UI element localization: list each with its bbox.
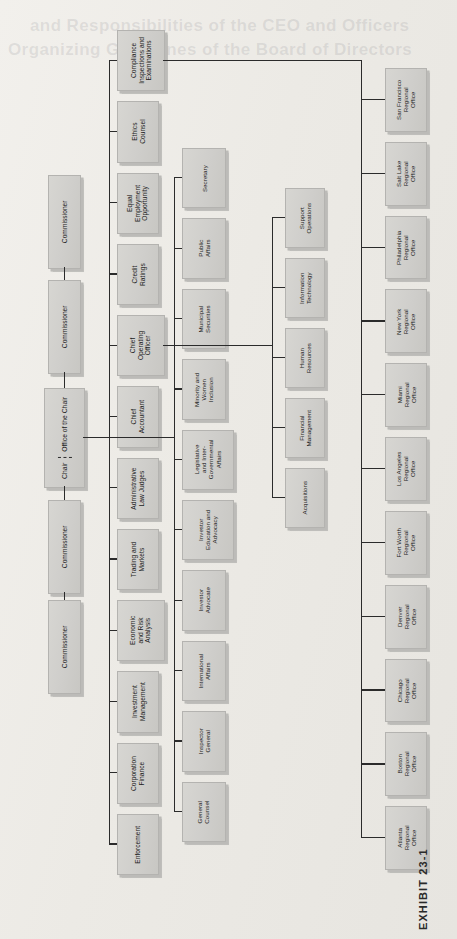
col2-stub-5	[174, 529, 182, 530]
col1-stub-8	[109, 630, 117, 631]
operating-unit-box-1[interactable]: InformationTechnology	[285, 258, 325, 318]
commissioner-box-0[interactable]: Commissioner	[48, 175, 81, 269]
regional-office-box-2-label: PhiladelphiaRegionalOffice	[395, 230, 417, 264]
regional-office-box-1[interactable]: Salt LakeRegionalOffice	[385, 142, 427, 206]
division-box-7-label: Trading andMarkets	[130, 542, 145, 578]
division-box-0[interactable]: ComplianceInspections andExaminations	[117, 30, 165, 91]
commissioner-box-3[interactable]: Commissioner	[48, 600, 81, 694]
chair-box[interactable]: ChairOffice of the Chair	[44, 388, 85, 488]
division-box-10-label: CorporationFinance	[130, 756, 145, 791]
operating-unit-box-0[interactable]: SupportOperations	[285, 188, 325, 248]
col1-stub-3	[109, 273, 117, 274]
regional-trunk	[361, 60, 362, 837]
division-box-0-label: ComplianceInspections andExaminations	[130, 37, 153, 84]
regional-office-box-4-label: MiamiRegionalOffice	[395, 383, 417, 408]
col3-stub-0	[272, 217, 285, 218]
operating-unit-box-2[interactable]: HumanResources	[285, 328, 325, 388]
col3-stub-1	[272, 287, 285, 288]
regional-office-box-9[interactable]: BostonRegionalOffice	[385, 732, 427, 796]
division-box-6-label: AdministrativeLaw Judges	[130, 467, 145, 509]
division-box-5-label: ChiefAccountant	[130, 400, 145, 434]
regional-stub-7	[361, 616, 385, 617]
division-box-4[interactable]: ChiefOperatingOfficer	[117, 315, 165, 376]
division-box-11[interactable]: Enforcement	[117, 814, 159, 875]
spine-connector-2	[64, 486, 65, 500]
col1-stub-7	[109, 558, 117, 559]
chair-subtitle: Office of the Chair	[61, 392, 69, 457]
col2-stub-4	[174, 459, 182, 460]
division-box-10[interactable]: CorporationFinance	[117, 743, 159, 804]
office-box-6[interactable]: InvestorAdvocate	[182, 570, 226, 630]
col2-stub-1	[174, 248, 182, 249]
division-box-1[interactable]: EthicsCounsel	[117, 101, 159, 162]
col3-stub-4	[272, 497, 285, 498]
regional-office-box-5[interactable]: Los AngelesRegionalOffice	[385, 437, 427, 501]
commissioner-box-1-label: Commissioner	[61, 306, 69, 349]
col3-stub-2	[272, 357, 285, 358]
compliance-to-regional	[163, 60, 361, 61]
col1-stub-5	[109, 416, 117, 417]
office-box-1[interactable]: PublicAffairs	[182, 218, 226, 278]
regional-office-box-8-label: ChicagoRegionalOffice	[395, 678, 417, 703]
chair-to-col1	[83, 437, 109, 438]
regional-office-box-8[interactable]: ChicagoRegionalOffice	[385, 659, 427, 723]
commissioner-box-0-label: Commissioner	[61, 201, 69, 244]
col2-stub-3	[174, 388, 182, 389]
regional-stub-4	[361, 394, 385, 395]
division-box-2[interactable]: EqualEmploymentOpportunity	[117, 173, 159, 234]
regional-office-box-7[interactable]: DenverRegionalOffice	[385, 585, 427, 649]
operating-unit-box-4-label: Acquisitions	[301, 481, 308, 515]
division-box-5[interactable]: ChiefAccountant	[117, 386, 159, 447]
regional-stub-6	[361, 542, 385, 543]
office-box-4[interactable]: Legislativeand Inter-GovernmentalAffairs	[182, 430, 234, 490]
commissioner-box-1[interactable]: Commissioner	[48, 280, 81, 374]
operating-unit-box-4[interactable]: Acquisitions	[285, 468, 325, 528]
regional-stub-0	[361, 99, 385, 100]
regional-office-box-0-label: San FranciscoRegionalOffice	[395, 80, 417, 120]
office-box-1-label: PublicAffairs	[197, 240, 211, 258]
exhibit-caption: EXHIBIT 23-1	[417, 848, 429, 930]
regional-stub-3	[361, 320, 385, 321]
regional-office-box-6[interactable]: Fort WorthRegionalOffice	[385, 511, 427, 575]
office-box-8-label: InspectorGeneral	[197, 728, 211, 754]
regional-office-box-6-label: Fort WorthRegionalOffice	[395, 528, 417, 558]
col2-stub-9	[174, 811, 182, 812]
office-box-0[interactable]: Secretary	[182, 148, 226, 208]
division-box-9-label: InvestmentManagement	[130, 682, 145, 721]
office-box-7-label: InternationalAffairs	[197, 654, 211, 689]
office-box-3[interactable]: Minority andWomenInclusion	[182, 359, 226, 419]
division-box-9[interactable]: InvestmentManagement	[117, 671, 159, 732]
operating-unit-box-3[interactable]: FinancialManagement	[285, 398, 325, 458]
regional-stub-8	[361, 689, 385, 690]
division-box-8[interactable]: Economicand RiskAnalysis	[117, 600, 165, 661]
office-box-5-label: InvestorEducation andAdvocacy	[197, 510, 219, 550]
col1-stub-6	[109, 487, 117, 488]
commissioner-box-2[interactable]: Commissioner	[48, 500, 81, 594]
regional-stub-1	[361, 173, 385, 174]
regional-office-box-0[interactable]: San FranciscoRegionalOffice	[385, 68, 427, 132]
regional-office-box-5-label: Los AngelesRegionalOffice	[395, 452, 417, 486]
coo-to-col3	[163, 345, 272, 346]
office-box-2[interactable]: MunicipalSecurities	[182, 289, 226, 349]
office-box-6-label: InvestorAdvocate	[197, 587, 211, 613]
regional-stub-9	[361, 763, 385, 764]
regional-office-box-2[interactable]: PhiladelphiaRegionalOffice	[385, 216, 427, 280]
regional-office-box-3[interactable]: New YorkRegionalOffice	[385, 289, 427, 353]
regional-office-box-1-label: Salt LakeRegionalOffice	[395, 161, 417, 187]
division-box-3-label: CreditRatings	[130, 263, 145, 286]
col1-stub-10	[109, 772, 117, 773]
office-box-5[interactable]: InvestorEducation andAdvocacy	[182, 500, 234, 560]
operating-unit-box-3-label: FinancialManagement	[298, 410, 312, 447]
office-box-9[interactable]: GeneralCounsel	[182, 782, 226, 842]
chair-title: Chair	[61, 458, 69, 484]
regional-office-box-4[interactable]: MiamiRegionalOffice	[385, 363, 427, 427]
regional-office-box-7-label: DenverRegionalOffice	[395, 604, 417, 629]
division-box-6[interactable]: AdministrativeLaw Judges	[117, 458, 159, 519]
division-box-7[interactable]: Trading andMarkets	[117, 529, 159, 590]
division-box-3[interactable]: CreditRatings	[117, 244, 159, 305]
col1-trunk	[109, 60, 110, 844]
office-box-0-label: Secretary	[200, 165, 207, 192]
office-box-8[interactable]: InspectorGeneral	[182, 711, 226, 771]
division-box-4-label: ChiefOperatingOfficer	[130, 331, 153, 360]
office-box-7[interactable]: InternationalAffairs	[182, 641, 226, 701]
